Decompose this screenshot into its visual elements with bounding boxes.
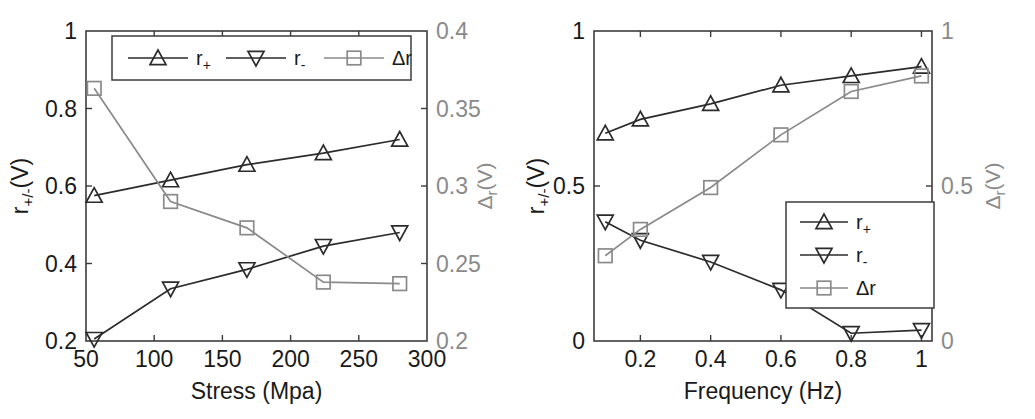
legend-label: Δr (856, 277, 876, 299)
y-axis-title-right: Δr(V) (981, 162, 1008, 209)
y-tick-label-left: 0.5 (553, 173, 585, 199)
x-tick-label: 50 (73, 346, 99, 372)
y-axis-title-left: r+/-(V) (7, 158, 36, 214)
y-title-r-tail: (V) (473, 162, 496, 190)
y-tick-label-right: 0.4 (436, 18, 468, 44)
y-axis-title-left-text: r+/-(V) (7, 158, 36, 214)
legend[interactable]: r+r-Δr (112, 36, 412, 80)
x-tick-label: 1 (915, 346, 928, 372)
x-tick-label: 150 (203, 346, 241, 372)
y-title-sub: +/- (19, 189, 36, 207)
y-tick-label-right: 0.35 (436, 96, 481, 122)
x-tick-label: 0.2 (624, 346, 656, 372)
series-line (94, 233, 400, 340)
y-axis-title-right-text: Δr(V) (473, 162, 500, 209)
y-tick-label-left: 0 (572, 328, 585, 354)
y-tick-label-right: 1 (941, 18, 954, 44)
y-tick-label-right: 0.5 (941, 173, 973, 199)
y-axis-right: 0.20.250.30.350.4 (421, 18, 481, 354)
legend-label-main: Δr (856, 277, 876, 299)
figure-container: 501001502002503000.20.40.60.810.20.250.3… (0, 0, 1035, 419)
y-axis-title-left: r+/-(V) (523, 158, 552, 214)
legend-label-sub: - (301, 57, 306, 73)
y-tick-label-left: 1 (64, 18, 77, 44)
y-axis-left: 00.51 (553, 18, 600, 354)
x-axis-title: Frequency (Hz) (684, 378, 842, 404)
y-tick-label-left: 1 (572, 18, 585, 44)
x-axis-title: Stress (Mpa) (191, 378, 323, 404)
y-title-tail: (V) (7, 158, 33, 189)
y-axis-title-right: Δr(V) (473, 162, 500, 209)
legend-label-sub: + (203, 57, 211, 73)
triangle-up-icon-datapoint (392, 132, 408, 147)
y-tick-label-left: 0.4 (45, 251, 77, 277)
y-axis-title-right-text: Δr(V) (981, 162, 1008, 209)
y-axis-left: 0.20.40.60.81 (45, 18, 92, 354)
x-tick-label: 250 (340, 346, 378, 372)
legend-label-sub: + (863, 221, 871, 237)
y-tick-label-right: 0.2 (436, 328, 468, 354)
x-tick-label: 0.8 (835, 346, 867, 372)
x-axis: 50100150200250300 (73, 31, 446, 372)
series-line (605, 67, 921, 134)
y-title-r-main: Δ (981, 195, 1004, 209)
legend-label-sub: - (863, 254, 868, 270)
legend-label-main: Δr (392, 47, 412, 69)
legend[interactable]: r+r-Δr (786, 202, 934, 308)
y-tick-label-right: 0.3 (436, 173, 468, 199)
x-tick-label: 100 (135, 346, 173, 372)
y-tick-label-left: 0.6 (45, 173, 77, 199)
y-title-r-main: Δ (473, 195, 496, 209)
y-tick-label-right: 0 (941, 328, 954, 354)
y-title-sub: +/- (535, 189, 552, 207)
square-icon-datapoint (598, 249, 612, 263)
y-tick-label-left: 0.2 (45, 328, 77, 354)
triangle-up-icon-datapoint (913, 59, 929, 74)
x-tick-label: 0.4 (695, 346, 727, 372)
y-title-tail: (V) (523, 158, 549, 189)
stress-plot: 501001502002503000.20.40.60.810.20.250.3… (0, 0, 518, 419)
x-tick-label: 200 (271, 346, 309, 372)
series-r+ (86, 132, 408, 203)
series-r+ (597, 59, 929, 140)
y-tick-label-left: 0.8 (45, 96, 77, 122)
x-tick-label: 0.6 (765, 346, 797, 372)
frequency-plot: 0.20.40.60.8100.5100.51Frequency (Hz)r+/… (518, 0, 1035, 419)
stress-panel: 501001502002503000.20.40.60.810.20.250.3… (0, 0, 518, 419)
frequency-panel: 0.20.40.60.8100.5100.51Frequency (Hz)r+/… (518, 0, 1035, 419)
legend-label: Δr (392, 47, 412, 69)
y-tick-label-right: 0.25 (436, 251, 481, 277)
y-axis-title-left-text: r+/-(V) (523, 158, 552, 214)
series-line (94, 140, 400, 196)
series-deltar (87, 82, 406, 291)
y-title-r-tail: (V) (981, 162, 1004, 190)
series-r- (86, 226, 408, 347)
